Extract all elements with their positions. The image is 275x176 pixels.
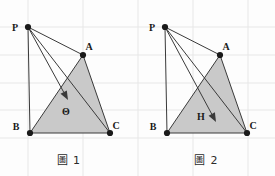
geometry-canvas: PABCΘPABCH: [0, 0, 275, 176]
point-label-a: A: [222, 41, 230, 52]
segment-pb: [165, 27, 167, 133]
figures-layer: PABCΘPABCH: [12, 22, 257, 136]
vertex-dot-p: [162, 24, 168, 30]
segment-pa: [28, 27, 83, 55]
point-label-marked: H: [197, 111, 205, 122]
figure-2: PABCH: [149, 22, 257, 136]
shaded-triangle-abc: [30, 55, 110, 133]
point-label-b: B: [150, 121, 157, 132]
point-label-c: C: [112, 120, 119, 131]
figure-stage: PABCΘPABCH 圖 1 圖 2: [0, 0, 275, 176]
vertex-dot-b: [27, 130, 33, 136]
point-label-a: A: [85, 41, 93, 52]
grid-layer: [0, 0, 275, 176]
point-label-p: P: [149, 22, 155, 33]
pointer-arrow-theta-shaft: [28, 27, 64, 92]
vertex-dot-b: [164, 130, 170, 136]
vertex-dot-a: [80, 52, 86, 58]
shaded-triangle-abc: [167, 55, 247, 133]
point-label-c: C: [249, 120, 256, 131]
vertex-dot-p: [25, 24, 31, 30]
point-label-b: B: [13, 121, 20, 132]
point-label-p: P: [12, 22, 18, 33]
vertex-dot-a: [217, 52, 223, 58]
point-label-marked: Θ: [62, 106, 70, 117]
